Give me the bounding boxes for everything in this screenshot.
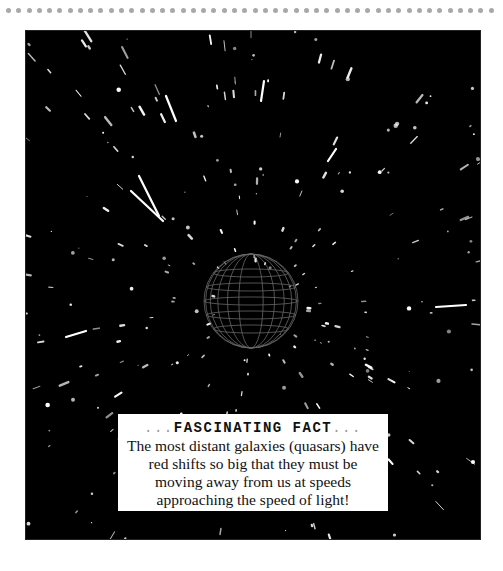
divider-dot bbox=[211, 8, 216, 13]
fact-title-text: FASCINATING FACT bbox=[174, 420, 332, 436]
wireframe-sphere-icon bbox=[204, 254, 298, 348]
divider-dot bbox=[109, 8, 114, 13]
divider-dot bbox=[335, 8, 340, 13]
divider-dot bbox=[170, 8, 175, 13]
divider-dot bbox=[427, 8, 432, 13]
divider-dot bbox=[345, 8, 350, 13]
divider-dot bbox=[47, 8, 52, 13]
divider-dot bbox=[417, 8, 422, 13]
divider-dot bbox=[181, 8, 186, 13]
divider-dot bbox=[324, 8, 329, 13]
divider-dot bbox=[304, 8, 309, 13]
divider-dot bbox=[98, 8, 103, 13]
divider-dot bbox=[314, 8, 319, 13]
divider-dot bbox=[489, 8, 494, 13]
divider-dot bbox=[283, 8, 288, 13]
divider-dot bbox=[273, 8, 278, 13]
title-dots-right: ... bbox=[332, 420, 362, 436]
divider-dot bbox=[78, 8, 83, 13]
divider-dot bbox=[437, 8, 442, 13]
divider-dot bbox=[88, 8, 93, 13]
divider-dot bbox=[37, 8, 42, 13]
divider-dot bbox=[232, 8, 237, 13]
divider-dot bbox=[448, 8, 453, 13]
fact-title: ...FASCINATING FACT... bbox=[118, 420, 388, 436]
divider-dot bbox=[263, 8, 268, 13]
divider-dot bbox=[27, 8, 32, 13]
divider-dot bbox=[68, 8, 73, 13]
divider-dot bbox=[458, 8, 463, 13]
divider-dot bbox=[201, 8, 206, 13]
divider-dot bbox=[150, 8, 155, 13]
divider-dot bbox=[386, 8, 391, 13]
divider-dot bbox=[140, 8, 145, 13]
divider-dot bbox=[468, 8, 473, 13]
divider-dot bbox=[376, 8, 381, 13]
divider-dot bbox=[242, 8, 247, 13]
divider-dot bbox=[6, 8, 11, 13]
divider-dot bbox=[160, 8, 165, 13]
divider-dot bbox=[365, 8, 370, 13]
divider-dot bbox=[396, 8, 401, 13]
title-dots-left: ... bbox=[144, 420, 174, 436]
divider-dot bbox=[16, 8, 21, 13]
divider-dot bbox=[222, 8, 227, 13]
divider-dot bbox=[119, 8, 124, 13]
divider-dot bbox=[294, 8, 299, 13]
divider-dot bbox=[407, 8, 412, 13]
divider-dot bbox=[57, 8, 62, 13]
fact-body-text: The most distant galaxies (quasars) have… bbox=[118, 436, 388, 509]
divider-dot bbox=[478, 8, 483, 13]
divider-dot bbox=[129, 8, 134, 13]
divider-dot bbox=[253, 8, 258, 13]
divider-dot bbox=[355, 8, 360, 13]
divider-dot bbox=[191, 8, 196, 13]
fascinating-fact-box: ...FASCINATING FACT... The most distant … bbox=[118, 414, 388, 511]
dotted-divider bbox=[0, 6, 503, 16]
